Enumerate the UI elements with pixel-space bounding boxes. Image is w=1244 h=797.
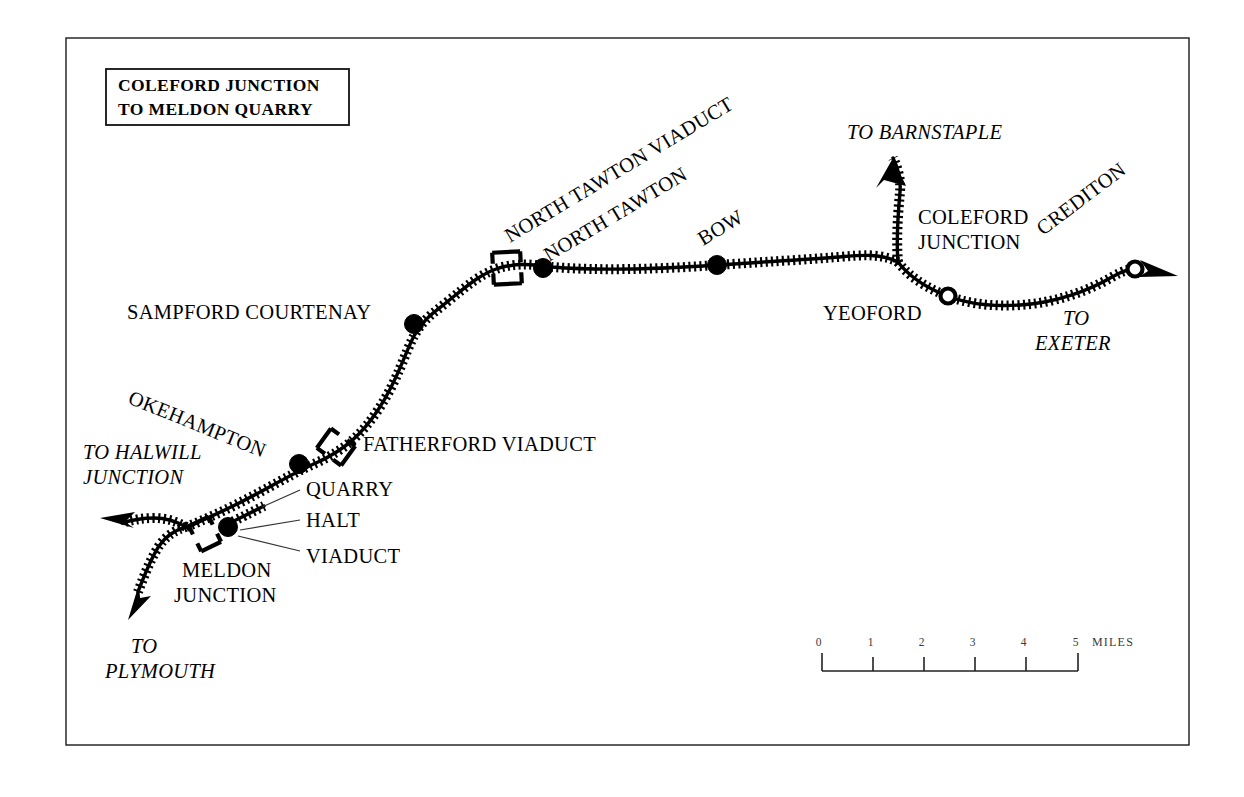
label-crediton: CREDITON <box>1032 158 1130 239</box>
scale-tick-0: 0 <box>816 636 822 648</box>
rail-line-halwill <box>122 518 186 527</box>
station-marker-okehampton[interactable] <box>290 455 309 474</box>
rail-line-plymouth <box>138 527 186 592</box>
label-yeoford: YEOFORD <box>823 302 922 324</box>
label-meldon-quarry: QUARRY <box>306 478 393 500</box>
scale-unit-label: MILES <box>1092 635 1134 649</box>
label-sampford-courtenay: SAMPFORD COURTENAY <box>127 301 371 323</box>
label-meldon-viaduct: VIADUCT <box>306 545 401 567</box>
map-canvas: COLEFORD JUNCTION TO MELDON QUARRY SAMPF… <box>0 0 1244 797</box>
arrowhead-to-exeter <box>1139 260 1178 277</box>
label-coleford-junction-line2: JUNCTION <box>918 231 1021 253</box>
rail-line-main <box>186 255 898 527</box>
scale-tick-3: 3 <box>970 636 976 648</box>
label-meldon-junction-line2: JUNCTION <box>174 584 277 606</box>
label-meldon-junction-line1: MELDON <box>182 559 272 581</box>
label-to-exeter-line1: TO <box>1063 307 1089 329</box>
label-to-halwill-line1: TO HALWILL <box>83 441 202 463</box>
station-marker-meldon-junction[interactable] <box>219 518 238 537</box>
title-line-2: TO MELDON QUARRY <box>118 99 313 119</box>
label-to-halwill-line2: JUNCTION <box>83 466 184 488</box>
label-fatherford-viaduct: FATHERFORD VIADUCT <box>363 433 596 455</box>
leader-line-viaduct <box>238 536 300 551</box>
label-coleford-junction-line1: COLEFORD <box>918 206 1029 228</box>
scale-tick-5: 5 <box>1073 636 1079 648</box>
station-marker-bow[interactable] <box>708 256 727 275</box>
station-marker-crediton[interactable] <box>1128 262 1143 277</box>
scale-tick-1: 1 <box>868 636 874 648</box>
station-marker-yeoford[interactable] <box>941 289 956 304</box>
label-to-exeter-line2: EXETER <box>1034 332 1111 354</box>
viaduct-symbol-meldon <box>189 517 221 552</box>
label-to-plymouth-line2: PLYMOUTH <box>104 660 216 682</box>
scale-tick-4: 4 <box>1021 636 1027 648</box>
rail-line-exeter <box>898 262 1140 306</box>
station-marker-sampford-courtenay[interactable] <box>405 315 424 334</box>
scale-bar: 0 1 2 3 4 5 MILES <box>816 635 1134 671</box>
label-bow: BOW <box>694 205 747 249</box>
label-meldon-halt: HALT <box>306 509 360 531</box>
leader-line-halt <box>240 520 300 530</box>
label-to-plymouth-line1: TO <box>131 635 157 657</box>
railway-map: COLEFORD JUNCTION TO MELDON QUARRY SAMPF… <box>0 0 1244 797</box>
title-line-1: COLEFORD JUNCTION <box>118 75 320 95</box>
scale-tick-2: 2 <box>919 636 925 648</box>
label-to-barnstaple: TO BARNSTAPLE <box>847 121 1002 143</box>
